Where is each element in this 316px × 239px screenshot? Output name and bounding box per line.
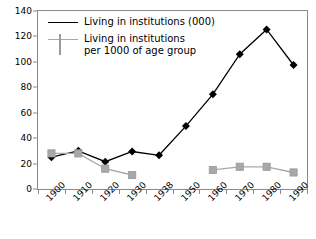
data-point-diamond xyxy=(101,158,109,166)
x-tick-mark xyxy=(226,190,227,194)
data-point-square xyxy=(290,169,297,176)
legend-label-series-2: Living in institutions per 1000 of age g… xyxy=(84,33,196,57)
data-point-square xyxy=(102,165,109,172)
x-tick-mark xyxy=(119,190,120,194)
data-point-square xyxy=(75,150,82,157)
y-axis: 020406080100120140 xyxy=(0,10,37,190)
y-tick-label: 20 xyxy=(21,159,32,168)
legend-marker-series-2 xyxy=(48,34,78,45)
legend-line-icon xyxy=(48,22,78,23)
data-point-square xyxy=(236,163,243,170)
y-tick-label: 0 xyxy=(26,185,32,194)
series-line xyxy=(213,167,294,173)
x-tick-mark xyxy=(65,190,66,194)
chart-container: 020406080100120140 190019101920193019381… xyxy=(0,0,316,239)
x-tick-mark xyxy=(38,190,39,194)
legend-item-series-1: Living in institutions (000) xyxy=(48,16,215,28)
x-axis: 1900191019201930193819501960197019801990 xyxy=(37,190,308,239)
data-point-diamond xyxy=(128,147,136,155)
data-point-square xyxy=(209,166,216,173)
x-tick-mark xyxy=(280,190,281,194)
data-point-square xyxy=(48,150,55,157)
y-tick-label: 140 xyxy=(15,7,32,16)
x-tick-mark xyxy=(92,190,93,194)
chart-legend: Living in institutions (000) Living in i… xyxy=(48,16,215,57)
square-marker-icon xyxy=(59,35,61,54)
x-tick-mark xyxy=(253,190,254,194)
data-point-square xyxy=(129,171,136,178)
x-tick-mark xyxy=(173,190,174,194)
x-tick-mark xyxy=(146,190,147,194)
y-tick-label: 40 xyxy=(21,134,32,143)
y-tick-label: 80 xyxy=(21,83,32,92)
data-point-square xyxy=(263,163,270,170)
y-tick-label: 60 xyxy=(21,108,32,117)
x-tick-mark xyxy=(199,190,200,194)
legend-marker-series-1 xyxy=(48,17,78,28)
legend-label-series-1: Living in institutions (000) xyxy=(84,16,215,28)
legend-item-series-2: Living in institutions per 1000 of age g… xyxy=(48,33,215,57)
y-tick-label: 120 xyxy=(15,32,32,41)
legend-line-icon xyxy=(48,39,78,40)
x-tick-mark xyxy=(307,190,308,194)
y-tick-label: 100 xyxy=(15,57,32,66)
